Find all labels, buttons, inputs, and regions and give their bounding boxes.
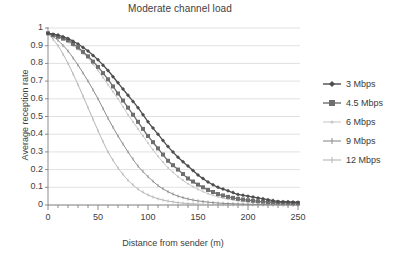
legend-marker-icon — [322, 98, 342, 108]
series-marker — [106, 77, 110, 81]
series-marker — [107, 84, 109, 86]
series-marker — [86, 54, 90, 58]
series-9-mbps — [48, 32, 298, 207]
series-marker — [171, 163, 175, 167]
series-3-mbps — [46, 31, 300, 204]
series-marker — [197, 188, 199, 190]
series-marker — [231, 191, 235, 195]
y-tick-label: 0.8 — [15, 58, 43, 67]
series-marker — [246, 198, 250, 202]
series-marker — [156, 146, 160, 150]
series-marker — [116, 91, 120, 95]
series-marker — [221, 193, 225, 197]
legend-item-12-mbps[interactable]: 12 Mbps — [322, 154, 383, 166]
series-marker — [126, 106, 130, 110]
series-marker — [251, 199, 255, 203]
series-marker — [162, 161, 164, 163]
legend-label: 9 Mbps — [346, 137, 376, 146]
legend-point — [331, 121, 334, 124]
series-marker — [121, 99, 125, 103]
series-marker — [91, 60, 95, 64]
x-tick-label: 200 — [228, 213, 268, 222]
series-12-mbps — [48, 32, 298, 207]
series-marker — [186, 176, 190, 180]
y-tick-label: 0.3 — [15, 147, 43, 156]
legend-label: 12 Mbps — [346, 156, 381, 165]
legend-item-3-mbps[interactable]: 3 Mbps — [322, 78, 383, 90]
series-marker — [246, 194, 250, 198]
series-line — [48, 33, 298, 203]
series-marker — [111, 84, 115, 88]
series-marker — [136, 120, 140, 124]
series-marker — [191, 180, 195, 184]
series-marker — [166, 159, 170, 163]
series-marker — [216, 192, 220, 196]
series-marker — [97, 69, 99, 71]
series-marker — [236, 192, 240, 196]
series-line — [48, 33, 298, 205]
series-marker — [157, 155, 159, 157]
legend-marker-icon — [322, 155, 342, 165]
x-tick-label: 250 — [278, 213, 318, 222]
series-line — [48, 33, 298, 205]
series-marker — [182, 179, 184, 181]
series-marker — [141, 127, 145, 131]
legend-item-9-mbps[interactable]: 9 Mbps — [322, 135, 383, 147]
series-marker — [76, 45, 80, 49]
series-marker — [241, 193, 245, 197]
series-marker — [201, 185, 205, 189]
series-marker — [147, 142, 149, 144]
series-marker — [81, 50, 85, 54]
chart-container: Moderate channel load Average reception … — [0, 0, 400, 257]
legend-marker-icon — [322, 117, 342, 127]
y-tick-label: 0.7 — [15, 76, 43, 85]
series-marker — [96, 65, 100, 69]
legend-label: 6 Mbps — [346, 118, 376, 127]
series-marker — [172, 171, 174, 173]
series-marker — [181, 172, 185, 176]
series-line — [48, 33, 298, 204]
series-marker — [161, 153, 165, 157]
series-marker — [236, 197, 240, 201]
y-tick-label: 0.6 — [15, 94, 43, 103]
series-marker — [177, 176, 179, 178]
series-marker — [176, 168, 180, 172]
y-tick-label: 1 — [15, 23, 43, 32]
legend-marker-icon — [322, 79, 342, 89]
series-marker — [196, 183, 200, 187]
x-tick-label: 0 — [28, 213, 68, 222]
series-marker — [212, 194, 214, 196]
series-marker — [251, 195, 255, 199]
series-line — [48, 33, 298, 202]
series-marker — [231, 196, 235, 200]
x-tick-label: 100 — [128, 213, 168, 222]
chart-legend: 3 Mbps4.5 Mbps6 Mbps9 Mbps12 Mbps — [322, 78, 383, 166]
legend-item-6-mbps[interactable]: 6 Mbps — [322, 116, 383, 128]
series-marker — [167, 167, 169, 169]
series-marker — [207, 193, 209, 195]
chart-title: Moderate channel load — [60, 3, 300, 14]
legend-label: 4.5 Mbps — [346, 99, 383, 108]
series-marker — [226, 195, 230, 199]
series-marker — [137, 128, 139, 130]
series-marker — [151, 140, 155, 144]
legend-item-4-5-mbps[interactable]: 4.5 Mbps — [322, 97, 383, 109]
y-tick-label: 0.5 — [15, 112, 43, 121]
series-marker — [217, 196, 219, 198]
series-marker — [226, 189, 230, 193]
series-marker — [146, 134, 150, 138]
series-4-5-mbps — [46, 31, 300, 205]
series-marker — [117, 98, 119, 100]
series-marker — [127, 114, 129, 116]
legend-marker-icon — [322, 136, 342, 146]
series-marker — [122, 106, 124, 108]
series-marker — [216, 185, 220, 189]
y-tick-label: 0 — [15, 200, 43, 209]
y-tick-label: 0.9 — [15, 41, 43, 50]
series-marker — [202, 190, 204, 192]
legend-point — [329, 81, 335, 87]
y-tick-label: 0.2 — [15, 165, 43, 174]
y-tick-label: 0.4 — [15, 129, 43, 138]
legend-point — [329, 100, 335, 106]
y-tick-label: 0.1 — [15, 182, 43, 191]
